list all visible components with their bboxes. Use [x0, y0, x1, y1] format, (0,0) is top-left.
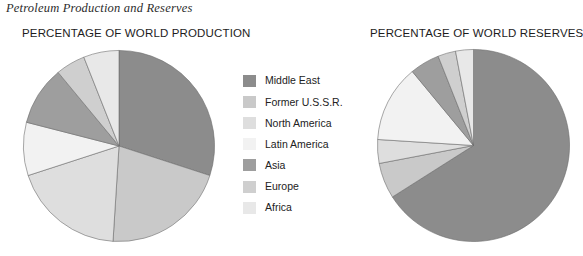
legend-swatch-icon — [243, 75, 256, 87]
legend-swatch-icon — [243, 138, 256, 150]
pie-chart-reserves — [375, 47, 572, 244]
legend-item-label: Europe — [265, 181, 299, 192]
legend-item[interactable]: Middle East — [243, 70, 355, 91]
legend-item[interactable]: Former U.S.S.R. — [243, 91, 355, 112]
pie-production-slices — [23, 50, 214, 241]
chart-legend: Middle EastFormer U.S.S.R.North AmericaL… — [243, 70, 355, 218]
legend-item[interactable]: Africa — [243, 197, 355, 218]
pie-reserves-svg — [375, 47, 572, 244]
legend-item-label: North America — [265, 118, 332, 129]
legend-item[interactable]: Asia — [243, 155, 355, 176]
legend-item-label: Africa — [265, 202, 292, 213]
chart-title-production: PERCENTAGE OF WORLD PRODUCTION — [22, 27, 251, 39]
legend-item[interactable]: North America — [243, 112, 355, 133]
legend-swatch-icon — [243, 202, 256, 214]
legend-item[interactable]: Europe — [243, 176, 355, 197]
legend-item[interactable]: Latin America — [243, 134, 355, 155]
legend-swatch-icon — [243, 159, 256, 171]
legend-item-label: Middle East — [265, 75, 320, 86]
legend-item-label: Former U.S.S.R. — [265, 97, 343, 108]
pie-reserves-slices — [377, 49, 569, 241]
legend-swatch-icon — [243, 96, 256, 108]
legend-item-label: Latin America — [265, 139, 329, 150]
figure-caption: Petroleum Production and Reserves — [6, 1, 193, 16]
legend-swatch-icon — [243, 117, 256, 129]
legend-item-label: Asia — [265, 160, 285, 171]
pie-chart-production — [21, 48, 217, 244]
pie-production-svg — [21, 48, 217, 244]
chart-title-reserves: PERCENTAGE OF WORLD RESERVES — [370, 27, 583, 39]
legend-swatch-icon — [243, 181, 256, 193]
